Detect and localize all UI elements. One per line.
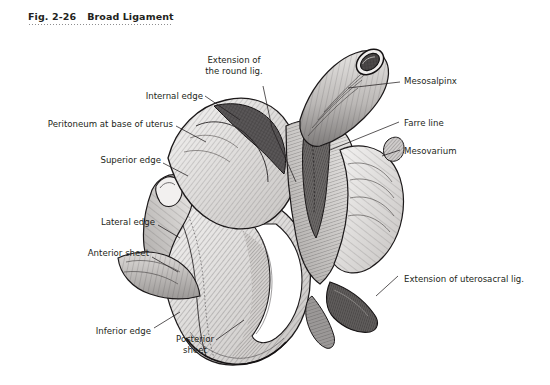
label-inferior-edge: Inferior edge — [56, 326, 151, 337]
label-extension-of-round-lig-line1: Extension of — [207, 55, 260, 65]
uterosacral-extension-flap — [306, 282, 378, 348]
label-mesovarium: Mesovarium — [404, 146, 457, 157]
label-internal-edge: Internal edge — [102, 91, 203, 102]
label-extension-of-round-lig: Extension of the round lig. — [188, 55, 280, 76]
figure-page: Fig. 2-26Broad Ligament — [0, 0, 550, 385]
label-lateral-edge: Lateral edge — [58, 217, 155, 228]
leader-uterosacral — [376, 276, 398, 296]
mesosalpinx-tube — [300, 44, 389, 146]
label-extension-of-uterosacral-lig: Extension of uterosacral lig. — [404, 274, 524, 285]
label-superior-edge: Superior edge — [60, 155, 161, 166]
label-posterior-sheet: Posterior sheet — [166, 334, 224, 355]
label-extension-of-round-lig-line2: the round lig. — [205, 66, 262, 76]
label-peritoneum-at-base-of-uterus: Peritoneum at base of uterus — [12, 119, 173, 130]
label-farre-line: Farre line — [404, 118, 444, 129]
label-posterior-sheet-line2: sheet — [183, 345, 207, 355]
label-posterior-sheet-line1: Posterior — [176, 334, 214, 344]
label-anterior-sheet: Anterior sheet — [48, 248, 149, 259]
label-mesosalpinx: Mesosalpinx — [404, 76, 457, 87]
